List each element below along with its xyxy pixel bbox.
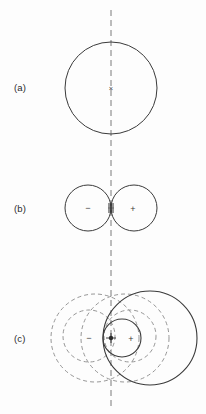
pole-marker-negative-b: − xyxy=(85,203,90,213)
panel-a-label: (a) xyxy=(14,82,26,93)
figure-container: (a) × (b) − + (c) xyxy=(0,0,206,414)
pole-marker-positive-c: + xyxy=(128,334,133,344)
panel-c-label: (c) xyxy=(14,333,26,344)
figure-background xyxy=(0,0,206,414)
center-marker-a-icon: × xyxy=(109,84,113,93)
panel-b-label: (b) xyxy=(14,203,26,214)
pole-marker-positive-b: + xyxy=(130,204,135,214)
circle-construction-figure: (a) × (b) − + (c) xyxy=(0,0,206,414)
pole-marker-negative-c: − xyxy=(86,333,91,343)
